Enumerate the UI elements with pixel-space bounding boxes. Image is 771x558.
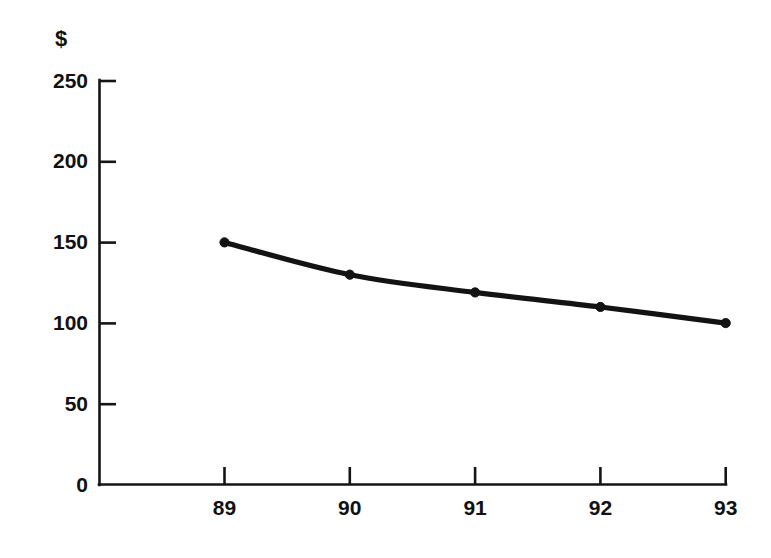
data-point-93 — [721, 319, 730, 328]
x-axis-ticks — [225, 467, 726, 484]
y-tick-label-100: 100 — [53, 311, 88, 334]
x-tick-label-93: 93 — [714, 496, 737, 519]
chart-container: $ 250 200 150 100 50 0 — [0, 0, 771, 558]
x-axis-tick-labels: 89 90 91 92 93 — [213, 496, 738, 519]
series-line-0 — [225, 242, 726, 323]
y-axis-ticks — [100, 81, 116, 404]
data-point-91 — [471, 288, 480, 297]
y-tick-label-250: 250 — [53, 69, 88, 92]
y-tick-label-200: 200 — [53, 149, 88, 172]
y-tick-label-0: 0 — [76, 473, 88, 496]
y-axis-tick-labels: 250 200 150 100 50 0 — [53, 69, 88, 496]
x-tick-label-92: 92 — [589, 496, 612, 519]
data-point-89 — [220, 238, 229, 247]
data-point-92 — [596, 302, 605, 311]
y-tick-label-50: 50 — [65, 392, 88, 415]
x-tick-label-91: 91 — [463, 496, 487, 519]
y-tick-label-150: 150 — [53, 230, 88, 253]
x-tick-label-89: 89 — [213, 496, 236, 519]
data-point-90 — [345, 270, 354, 279]
line-chart: $ 250 200 150 100 50 0 — [0, 0, 771, 558]
y-axis-unit-label: $ — [55, 26, 67, 51]
x-tick-label-90: 90 — [338, 496, 361, 519]
